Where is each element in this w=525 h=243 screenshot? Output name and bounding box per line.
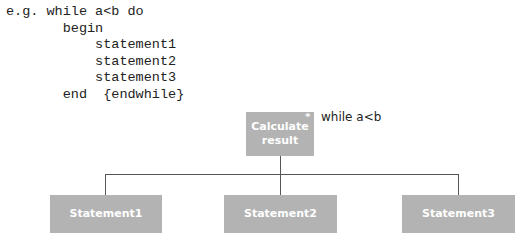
root-box-calculate-result: Calculate result <box>246 112 314 156</box>
root-label-line2: result <box>262 134 298 148</box>
code-line: statement3 <box>6 70 184 87</box>
connector-root-vertical <box>280 156 281 174</box>
root-label-line1: Calculate <box>251 120 309 134</box>
pseudocode-block: e.g. while a<b do begin statement1 state… <box>6 4 184 103</box>
statement2-label: Statement2 <box>244 207 317 221</box>
code-line: statement1 <box>6 37 184 54</box>
connector-child2 <box>280 174 281 195</box>
statement1-label: Statement1 <box>70 207 143 221</box>
statement2-box: Statement2 <box>224 195 337 233</box>
statement1-box: Statement1 <box>50 195 162 233</box>
connector-child3 <box>458 174 459 195</box>
iteration-marker: * <box>305 110 311 122</box>
statement3-box: Statement3 <box>402 195 515 233</box>
connector-child1 <box>105 174 106 195</box>
connector-horizontal <box>105 174 459 175</box>
code-line: begin <box>6 21 184 38</box>
code-line: statement2 <box>6 54 184 71</box>
code-line: end {endwhile} <box>6 87 184 104</box>
loop-condition-label: while a<b <box>321 110 381 124</box>
code-line: e.g. while a<b do <box>6 4 184 21</box>
statement3-label: Statement3 <box>422 207 495 221</box>
